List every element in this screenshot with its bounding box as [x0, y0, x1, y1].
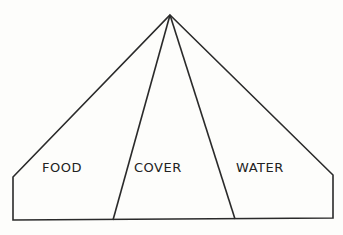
- section-label-cover: COVER: [134, 161, 182, 174]
- divider-left: [113, 15, 170, 220]
- habitat-diagram: [0, 0, 343, 235]
- section-label-water: WATER: [236, 161, 284, 174]
- diagram-outline: [13, 15, 333, 220]
- section-label-food: FOOD: [42, 161, 82, 174]
- divider-right: [170, 15, 235, 219]
